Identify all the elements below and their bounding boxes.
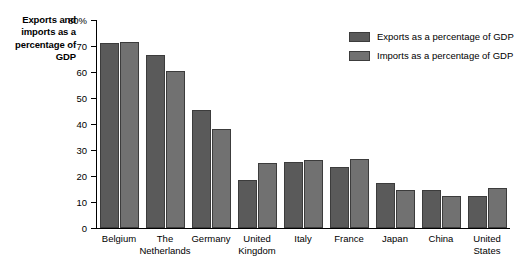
legend-item-imports: Imports as a percentage of GDP xyxy=(349,48,514,63)
bar-chart: Exports and imports as a percentage of G… xyxy=(0,0,521,266)
y-axis-tick-label: 50 xyxy=(76,93,87,104)
legend-label-imports: Imports as a percentage of GDP xyxy=(377,50,513,61)
bar-group xyxy=(192,20,231,228)
bar-imports xyxy=(396,190,415,228)
bar-imports xyxy=(488,188,507,228)
legend-swatch-imports xyxy=(349,51,370,61)
y-axis-tick-label: 20 xyxy=(76,171,87,182)
y-axis-tick-label: 0 xyxy=(82,223,87,234)
bar-group xyxy=(238,20,277,228)
y-axis-tick-label: 30 xyxy=(76,145,87,156)
bar-group xyxy=(100,20,139,228)
y-axis-tick-label: 10 xyxy=(76,197,87,208)
y-axis-tick-label: 80% xyxy=(68,15,87,26)
bar-imports xyxy=(120,42,139,228)
bar-exports xyxy=(146,55,165,228)
bar-imports xyxy=(212,129,231,228)
y-axis-tick-label: 60 xyxy=(76,67,87,78)
bar-imports xyxy=(166,71,185,228)
bar-exports xyxy=(376,183,395,229)
bar-exports xyxy=(468,196,487,229)
chart-legend: Exports as a percentage of GDP Imports a… xyxy=(349,29,514,67)
bar-group xyxy=(146,20,185,228)
y-axis: 80%706050403020100 xyxy=(0,0,96,266)
bar-imports xyxy=(258,163,277,228)
bar-imports xyxy=(442,196,461,229)
legend-swatch-exports xyxy=(349,32,370,42)
bar-imports xyxy=(350,159,369,228)
x-axis-line xyxy=(96,228,510,229)
x-axis-category-label: United States xyxy=(458,233,516,256)
legend-item-exports: Exports as a percentage of GDP xyxy=(349,29,514,44)
bar-imports xyxy=(304,160,323,228)
bar-exports xyxy=(238,180,257,228)
legend-label-exports: Exports as a percentage of GDP xyxy=(377,31,514,42)
bar-group xyxy=(284,20,323,228)
y-axis-tick-label: 40 xyxy=(76,119,87,130)
bar-exports xyxy=(192,110,211,228)
bar-exports xyxy=(330,167,349,228)
bar-exports xyxy=(284,162,303,228)
y-axis-tick-label: 70 xyxy=(76,41,87,52)
bar-exports xyxy=(422,190,441,228)
bar-exports xyxy=(100,43,119,228)
